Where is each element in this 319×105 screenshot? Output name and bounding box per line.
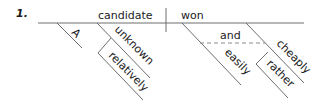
subject-word: candidate <box>98 9 153 22</box>
conjunction-word: and <box>220 29 241 42</box>
verb-word: won <box>181 9 204 22</box>
article-word: A <box>69 26 84 41</box>
exercise-number: 1. <box>16 7 28 20</box>
adverb-word-easily: easily <box>222 46 254 78</box>
rather-connector-line <box>256 52 268 64</box>
sentence-diagram: 1. candidate won A unknown relatively an… <box>0 0 319 105</box>
adverb-connector-line <box>98 38 111 53</box>
